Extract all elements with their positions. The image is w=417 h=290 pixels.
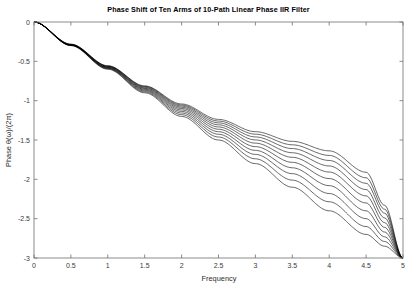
y-tick-label: -1.5 <box>18 137 30 144</box>
y-tick-labels-group: -3-2.5-2-1.5-1-0.50 <box>18 19 30 262</box>
y-tick-label: -0.5 <box>18 58 30 65</box>
y-tick-label: -1 <box>24 97 30 104</box>
x-axis-title: Frequency <box>202 274 237 283</box>
x-tick-labels-group: 00.511.522.533.544.55 <box>32 262 405 269</box>
data-curves-group <box>34 22 403 258</box>
y-tick-label: -2.5 <box>18 215 30 222</box>
y-tick-label: 0 <box>26 19 30 26</box>
plot-area: 00.511.522.533.544.55 -3-2.5-2-1.5-1-0.5… <box>0 0 417 290</box>
figure-canvas: Phase Shift of Ten Arms of 10-Path Linea… <box>0 0 417 290</box>
x-tick-label: 0.5 <box>66 262 76 269</box>
y-axis-title: Phase θ(ω)/(2π) <box>4 113 13 167</box>
x-tick-label: 3 <box>253 262 257 269</box>
x-tick-label: 3.5 <box>287 262 297 269</box>
x-tick-label: 1 <box>106 262 110 269</box>
x-tick-label: 1.5 <box>140 262 150 269</box>
x-tick-label: 4.5 <box>361 262 371 269</box>
x-tick-label: 2.5 <box>214 262 224 269</box>
x-tick-label: 4 <box>327 262 331 269</box>
x-tick-label: 5 <box>401 262 405 269</box>
x-tick-label: 2 <box>180 262 184 269</box>
y-tick-label: -3 <box>24 255 30 262</box>
y-tick-label: -2 <box>24 176 30 183</box>
x-tick-label: 0 <box>32 262 36 269</box>
